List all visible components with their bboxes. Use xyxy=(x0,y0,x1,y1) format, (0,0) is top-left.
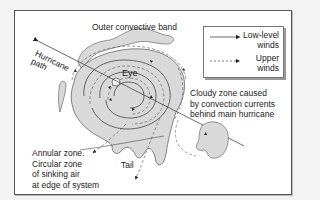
outer-band-label: Outer convective band xyxy=(92,22,177,33)
legend-low-level-label: Low-level winds xyxy=(243,30,279,50)
legend: Low-level winds Upper winds xyxy=(203,26,284,78)
trailing-cloud-dash xyxy=(175,120,196,156)
annular-zone-label: Annular zone. Circular zone of sinking a… xyxy=(32,148,99,190)
left-band-shape xyxy=(59,81,67,112)
legend-up-line2: winds xyxy=(256,63,279,73)
cloudy-line-3: behind main hurricane xyxy=(190,109,275,120)
tail-label: Tail xyxy=(121,160,134,171)
cloudy-line-2: by convection currents xyxy=(190,99,275,110)
legend-upper-label: Upper winds xyxy=(256,53,279,73)
cloudy-line-1: Cloudy zone caused xyxy=(190,88,275,99)
legend-lines xyxy=(208,27,248,77)
annular-line-2: Circular zone xyxy=(32,159,99,170)
annular-line-1: Annular zone. xyxy=(32,148,99,159)
trailing-cloud-zone xyxy=(196,122,228,158)
legend-up-line1: Upper xyxy=(256,53,279,63)
eye-label: Eye xyxy=(122,68,138,79)
legend-low-line2: winds xyxy=(243,40,279,50)
annular-line-4: at edge of system xyxy=(32,180,99,191)
annular-line-3: of sinking air xyxy=(32,169,99,180)
legend-low-line1: Low-level xyxy=(243,30,279,40)
cloudy-zone-label: Cloudy zone caused by convection current… xyxy=(190,88,275,120)
